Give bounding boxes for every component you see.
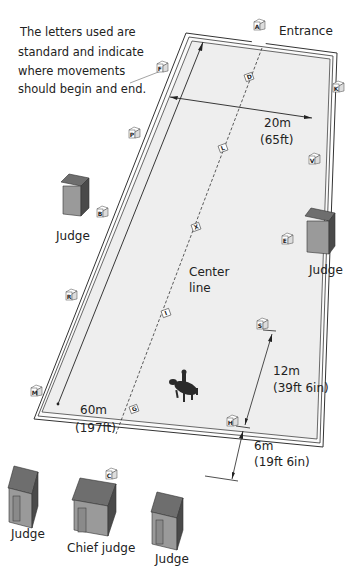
center-line-label-2: line <box>189 281 211 295</box>
judge-label-right: Judge <box>308 263 343 277</box>
svg-text:P: P <box>130 131 135 138</box>
marker-B: B <box>97 206 108 217</box>
judge-label-left: Judge <box>55 229 90 243</box>
annotation-text: The letters used are standard and indica… <box>18 25 148 96</box>
svg-text:E: E <box>283 237 287 244</box>
dressage-arena-diagram: The letters used are standard and indica… <box>0 0 355 576</box>
svg-text:K: K <box>334 85 339 92</box>
judge-hut-right <box>305 208 335 254</box>
judge-hut-left <box>61 174 89 216</box>
length-meters-label: 60m <box>80 403 107 417</box>
chief-judge-label: Chief judge <box>67 541 135 555</box>
marker-F: F <box>157 61 168 72</box>
spacing-12ft-label: (39ft 6in) <box>273 381 329 395</box>
svg-text:R: R <box>67 293 72 300</box>
marker-A: A <box>254 19 265 30</box>
length-feet-label: (197ft) <box>75 421 116 435</box>
svg-text:F: F <box>158 65 162 72</box>
width-feet-label: (65ft) <box>260 133 293 147</box>
judge-hut-bottom-left <box>8 466 38 528</box>
svg-text:S: S <box>258 322 262 329</box>
marker-P: P <box>129 127 140 138</box>
center-line-label-1: Center <box>189 265 229 279</box>
spacing-6m-label: 6m <box>254 439 273 453</box>
entrance-label: Entrance <box>279 24 333 38</box>
marker-M: M <box>31 385 42 396</box>
spacing-12m-label: 12m <box>273 364 300 378</box>
judge-label-bottom-left: Judge <box>10 527 45 541</box>
judge-label-bottom-right: Judge <box>154 552 189 566</box>
judge-hut-bottom-right <box>151 492 183 550</box>
svg-text:B: B <box>98 210 103 217</box>
svg-text:A: A <box>255 23 260 30</box>
marker-R: R <box>66 289 77 300</box>
width-meters-label: 20m <box>264 116 291 130</box>
spacing-6ft-label: (19ft 6in) <box>254 455 310 469</box>
svg-text:C: C <box>107 472 112 479</box>
marker-C: C <box>106 468 117 479</box>
svg-text:V: V <box>310 157 315 164</box>
judge-hut-chief <box>72 478 116 536</box>
svg-text:H: H <box>228 419 233 426</box>
svg-text:M: M <box>32 389 38 396</box>
